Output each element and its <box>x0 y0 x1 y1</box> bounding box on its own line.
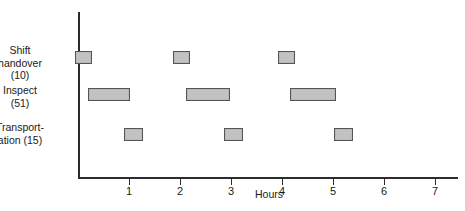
bar-shift-handover-2 <box>173 51 190 64</box>
bar-inspect-1 <box>88 88 130 101</box>
x-tick-label-3: 3 <box>221 185 241 198</box>
bar-fill <box>126 130 141 139</box>
bar-fill <box>77 53 89 62</box>
category-label-transportation: Transport- ation (15) <box>0 121 75 146</box>
bar-fill <box>336 130 351 139</box>
bar-fill <box>292 90 334 99</box>
bar-transportation-1 <box>124 128 143 141</box>
y-axis-line <box>78 12 80 179</box>
x-tick-label-1: 1 <box>119 185 139 198</box>
bar-fill <box>175 53 188 62</box>
x-axis-line <box>78 177 458 179</box>
bar-transportation-2 <box>224 128 243 141</box>
bar-inspect-3 <box>290 88 336 101</box>
bar-fill <box>90 90 128 99</box>
bar-inspect-2 <box>186 88 230 101</box>
x-axis-title: Hours <box>255 188 283 200</box>
bar-shift-handover-3 <box>278 51 295 64</box>
bar-shift-handover-1 <box>75 51 91 64</box>
x-tick-label-6: 6 <box>374 185 394 198</box>
category-label-inspect: Inspect (51) <box>0 84 75 109</box>
x-tick-label-2: 2 <box>170 185 190 198</box>
bar-transportation-3 <box>334 128 353 141</box>
x-tick-label-5: 5 <box>323 185 343 198</box>
gantt-chart: Shift handover (10) Inspect (51) Transpo… <box>0 0 465 211</box>
x-tick-label-7: 7 <box>425 185 445 198</box>
bar-fill <box>188 90 228 99</box>
category-label-shift-handover: Shift handover (10) <box>0 44 75 82</box>
bar-fill <box>280 53 293 62</box>
bar-fill <box>226 130 241 139</box>
